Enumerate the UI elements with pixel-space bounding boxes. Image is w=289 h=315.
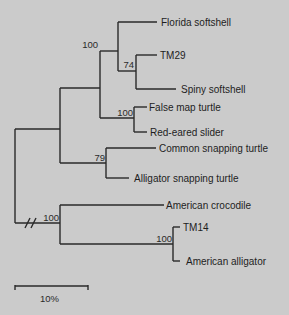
bootstrap-value: 100	[117, 107, 133, 118]
bootstrap-value: 100	[156, 233, 172, 244]
scale-bar: 10%	[15, 285, 88, 304]
taxon-label: TM29	[160, 50, 186, 61]
taxon-label: Common snapping turtle	[159, 143, 268, 154]
taxon-label: Florida softshell	[161, 17, 231, 28]
bootstrap-value: 74	[123, 59, 134, 70]
taxon-label: Spiny softshell	[181, 84, 245, 95]
taxon-label: False map turtle	[149, 102, 221, 113]
taxon-label: American crocodile	[166, 200, 251, 211]
bootstrap-value: 100	[43, 212, 59, 223]
phylogenetic-tree: Florida softshell TM29 Spiny softshell F…	[0, 0, 289, 315]
taxon-label: TM14	[183, 222, 209, 233]
bootstrap-value: 79	[94, 152, 105, 163]
taxon-label: Red-eared slider	[150, 127, 225, 138]
bootstrap-value: 100	[82, 39, 98, 50]
taxon-label: Alligator snapping turtle	[134, 173, 239, 184]
taxon-label: American alligator	[186, 256, 267, 267]
scale-bar-label: 10%	[40, 293, 60, 304]
